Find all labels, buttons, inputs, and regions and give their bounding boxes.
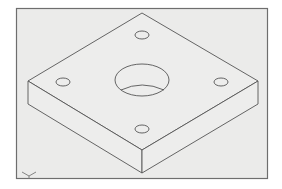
drawing-canvas	[0, 0, 282, 189]
cad-viewport[interactable]	[0, 0, 282, 189]
